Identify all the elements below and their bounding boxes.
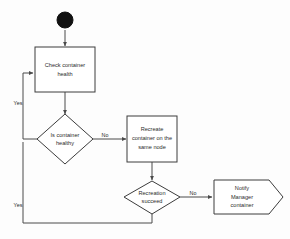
node-notify-manager-container-line-1: Notify	[235, 185, 250, 191]
edge-label-healthy-no: No	[102, 132, 109, 138]
node-recreation-succeed-line-2: succeed	[142, 198, 163, 204]
node-notify-manager-container-line-3: container	[230, 202, 253, 208]
edge-label-succeed-no: No	[190, 190, 197, 196]
node-is-container-healthy-line-2: healthy	[56, 140, 74, 146]
node-recreation-succeed-line-1: Recreation	[138, 190, 165, 196]
flowchart-svg: Check container health Is container heal…	[0, 0, 290, 239]
flowchart-canvas: Check container health Is container heal…	[0, 0, 290, 239]
node-recreate-container-line-2: container on the	[132, 135, 172, 141]
node-check-container-health-line-1: Check container	[45, 62, 86, 68]
node-notify-manager-container-line-2: Manager	[231, 194, 253, 200]
edge-label-healthy-yes: Yes	[14, 100, 23, 106]
edge-label-succeed-yes: Yes	[14, 202, 23, 208]
node-recreate-container-line-3: same node	[138, 144, 166, 150]
node-check-container-health-line-2: health	[57, 71, 72, 77]
node-is-container-healthy-line-1: Is container	[51, 132, 80, 138]
node-recreate-container-line-1: Recreate	[141, 126, 164, 132]
node-is-container-healthy	[37, 114, 93, 164]
start-node-circle	[57, 12, 73, 28]
node-check-container-health	[35, 47, 95, 92]
